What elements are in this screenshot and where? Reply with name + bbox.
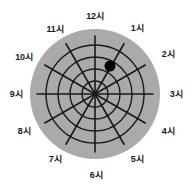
hour-label-12: 12시 bbox=[86, 11, 103, 21]
hour-label-10: 10시 bbox=[15, 52, 32, 62]
hour-label-6: 6시 bbox=[90, 170, 103, 180]
hour-label-3: 3시 bbox=[170, 89, 183, 99]
data-points-group bbox=[105, 61, 116, 72]
polar-chart-canvas bbox=[0, 0, 192, 191]
hour-label-7: 7시 bbox=[49, 154, 62, 164]
hour-label-5: 5시 bbox=[131, 154, 144, 164]
hour-label-8: 8시 bbox=[18, 126, 31, 136]
hour-label-1: 1시 bbox=[131, 23, 144, 33]
hour-label-9: 9시 bbox=[10, 89, 23, 99]
hour-label-2: 2시 bbox=[162, 49, 175, 59]
polar-chart-figure: 12시1시2시3시4시5시6시7시8시9시10시11시 bbox=[0, 0, 192, 191]
hour-label-11: 11시 bbox=[47, 24, 64, 34]
data-point-marker[interactable] bbox=[105, 61, 116, 72]
hour-label-4: 4시 bbox=[162, 126, 175, 136]
